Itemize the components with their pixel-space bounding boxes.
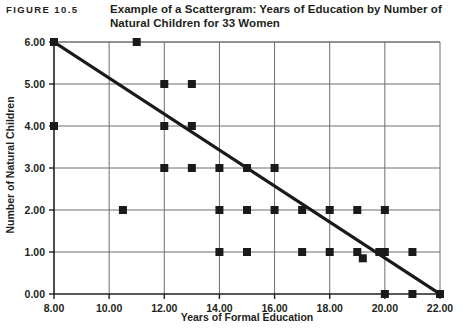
data-point-marker — [381, 290, 389, 298]
data-point-marker — [326, 248, 334, 256]
figure-caption: Example of a Scattergram: Years of Educa… — [110, 3, 461, 30]
figure-number-label: FIGURE 10.5 — [6, 3, 110, 15]
scattergram-chart: 8.0010.0012.0014.0016.0018.0020.0022.00 … — [0, 36, 465, 329]
y-axis-title: Number of Natural Children — [4, 96, 16, 233]
x-axis-tick-label: 18.00 — [317, 302, 343, 314]
data-point-marker — [160, 122, 168, 130]
data-point-marker — [298, 206, 306, 214]
data-point-marker — [359, 254, 367, 262]
y-axis-tick-label: 1.00 — [25, 246, 46, 258]
data-point-marker — [408, 248, 416, 256]
data-point-marker — [50, 38, 58, 46]
data-point-marker — [188, 122, 196, 130]
data-point-marker — [160, 80, 168, 88]
data-point-marker — [381, 206, 389, 214]
data-point-marker — [160, 164, 168, 172]
y-axis-tick-label: 4.00 — [25, 120, 46, 132]
y-axis-tick-label: 3.00 — [25, 162, 46, 174]
data-point-marker — [133, 38, 141, 46]
data-point-marker — [298, 248, 306, 256]
x-axis-tick-label: 10.00 — [96, 302, 122, 314]
data-point-marker — [271, 164, 279, 172]
figure-caption-line-1: Example of a Scattergram: Years of Educa… — [110, 3, 428, 15]
x-axis-tick-label: 8.00 — [44, 302, 65, 314]
data-point-marker — [215, 164, 223, 172]
x-axis-tick-label: 12.00 — [151, 302, 177, 314]
x-axis-tick-label: 20.00 — [372, 302, 398, 314]
x-axis-tick-label: 22.00 — [427, 302, 453, 314]
data-point-marker — [408, 290, 416, 298]
data-point-marker — [215, 248, 223, 256]
data-point-marker — [243, 164, 251, 172]
data-point-marker — [381, 248, 389, 256]
y-axis-tick-label: 2.00 — [25, 204, 46, 216]
data-point-marker — [119, 206, 127, 214]
data-point-marker — [188, 80, 196, 88]
y-axis-tick-label: 0.00 — [25, 288, 46, 300]
data-point-marker — [243, 206, 251, 214]
figure-header: FIGURE 10.5 Example of a Scattergram: Ye… — [0, 0, 465, 30]
data-point-marker — [326, 206, 334, 214]
x-axis-title: Years of Formal Education — [181, 311, 313, 323]
y-axis-tick-label: 6.00 — [25, 36, 46, 48]
y-axis-tick-labels: 0.001.002.003.004.005.006.00 — [25, 36, 46, 300]
data-point-marker — [243, 248, 251, 256]
data-point-marker — [50, 122, 58, 130]
y-axis-tick-label: 5.00 — [25, 78, 46, 90]
chart-canvas: 8.0010.0012.0014.0016.0018.0020.0022.00 … — [0, 36, 465, 329]
data-point-marker — [271, 206, 279, 214]
data-point-marker — [436, 290, 444, 298]
data-point-marker — [215, 206, 223, 214]
data-point-marker — [188, 164, 196, 172]
data-point-marker — [353, 206, 361, 214]
